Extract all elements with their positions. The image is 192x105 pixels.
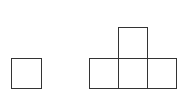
t-bottom-left-square [89,58,119,89]
t-bottom-right-square [147,58,177,89]
diagram-canvas [0,0,192,105]
t-bottom-middle-square [118,58,148,89]
single-square [11,58,42,89]
t-top-square [118,27,148,59]
